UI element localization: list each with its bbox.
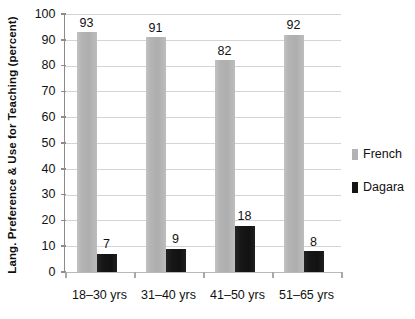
- y-axis-tick-label: 80: [42, 59, 61, 72]
- x-axis-label-0: 18–30 yrs: [72, 288, 127, 302]
- y-axis-tick-label: 60: [42, 110, 61, 123]
- bar-dagara-3[interactable]: 8: [304, 251, 324, 272]
- y-axis-tick-label: 20: [42, 214, 61, 227]
- x-axis-tick-mark: [134, 272, 136, 278]
- legend-item-dagara: Dagara: [352, 181, 414, 194]
- x-axis-label-3: 51–65 yrs: [279, 288, 334, 302]
- bar-french-3[interactable]: 92: [284, 35, 304, 272]
- legend-swatch-french-icon: [352, 149, 358, 160]
- bar-value-label: 18: [238, 210, 252, 223]
- bar-value-label: 93: [80, 17, 94, 30]
- bar-french-0[interactable]: 93: [77, 32, 97, 272]
- legend-item-french: French: [352, 148, 414, 161]
- x-axis-tick-mark: [272, 272, 274, 278]
- bar-group: 937: [65, 14, 134, 272]
- y-axis-tick-label: 100: [35, 7, 61, 20]
- legend: French Dagara: [352, 148, 414, 214]
- y-axis-tick-label: 50: [42, 136, 61, 149]
- bars-layer: 9379198218928: [65, 14, 341, 272]
- y-axis-title-text: Lang. Preference & Use for Teaching (per…: [6, 16, 18, 273]
- bar-value-label: 7: [103, 238, 110, 251]
- legend-label-dagara: Dagara: [363, 181, 404, 194]
- bar-dagara-1[interactable]: 9: [166, 249, 186, 272]
- bar-french-1[interactable]: 91: [146, 37, 166, 272]
- bar-group: 928: [272, 14, 341, 272]
- bar-value-label: 92: [287, 19, 301, 32]
- bar-group: 919: [134, 14, 203, 272]
- y-axis-tick-label: 40: [42, 162, 61, 175]
- x-axis-label-2: 41–50 yrs: [210, 288, 265, 302]
- bar-french-2[interactable]: 82: [215, 60, 235, 272]
- bar-value-label: 8: [310, 236, 317, 249]
- y-axis-tick-label: 70: [42, 85, 61, 98]
- legend-label-french: French: [363, 148, 402, 161]
- bar-dagara-0[interactable]: 7: [97, 254, 117, 272]
- bar-chart: Lang. Preference & Use for Teaching (per…: [0, 0, 415, 319]
- y-axis-tick-label: 90: [42, 33, 61, 46]
- x-axis-tick-mark: [203, 272, 205, 278]
- y-axis-tick-label: 10: [42, 239, 61, 252]
- y-axis-tick-label: 0: [49, 265, 61, 278]
- bar-dagara-2[interactable]: 18: [235, 226, 255, 272]
- y-axis-tick-label: 30: [42, 188, 61, 201]
- bar-value-label: 82: [218, 45, 232, 58]
- x-axis-tick-mark: [341, 272, 343, 278]
- x-axis-label-1: 31–40 yrs: [141, 288, 196, 302]
- plot-area: 0102030405060708090100 9379198218928 18–…: [64, 14, 341, 272]
- bar-group: 8218: [203, 14, 272, 272]
- bar-value-label: 9: [172, 233, 179, 246]
- x-axis-tick-mark: [65, 272, 67, 278]
- legend-swatch-dagara-icon: [352, 182, 358, 193]
- y-axis-title: Lang. Preference & Use for Teaching (per…: [0, 0, 24, 290]
- bar-value-label: 91: [149, 22, 163, 35]
